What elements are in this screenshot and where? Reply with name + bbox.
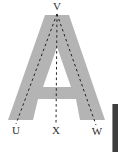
diagram-canvas: V U X W	[0, 0, 118, 152]
vertex-label-u: U	[12, 125, 20, 136]
right-edge-panel-fragment	[112, 104, 118, 152]
vertex-label-v: V	[53, 1, 61, 12]
symmetry-line-v-u	[16, 14, 57, 124]
vertex-label-w: W	[92, 126, 102, 137]
vertex-label-x: X	[52, 125, 60, 136]
